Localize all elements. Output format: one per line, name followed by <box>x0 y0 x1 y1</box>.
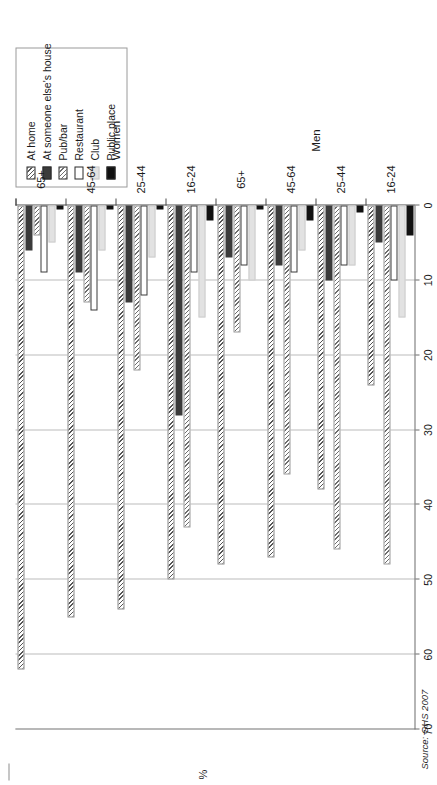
bar-club <box>198 205 205 317</box>
bar-home <box>367 205 374 385</box>
gridline <box>15 728 415 729</box>
bar-home <box>317 205 324 489</box>
axis-baseline <box>414 205 415 729</box>
bar-public <box>406 205 413 235</box>
bar-someone <box>75 205 82 272</box>
category-axis-label: 65+ <box>234 159 246 199</box>
category-tick <box>265 198 266 205</box>
bar-someone <box>125 205 132 302</box>
bar-pub <box>133 205 140 370</box>
category-axis-label: 45-64 <box>84 159 96 199</box>
value-axis-tick-label: 50 <box>421 573 433 585</box>
corner-rule <box>8 763 9 780</box>
bar-club <box>248 205 255 280</box>
bar-public <box>106 205 113 209</box>
value-axis-tick-label: 40 <box>421 499 433 511</box>
value-axis-tick-label: 30 <box>421 424 433 436</box>
bar-public <box>256 205 263 209</box>
bar-pub <box>383 205 390 564</box>
gridline <box>15 354 415 355</box>
bar-rest <box>240 205 247 265</box>
bar-someone <box>275 205 282 265</box>
bar-home <box>267 205 274 557</box>
value-axis-tick-label: 20 <box>421 349 433 361</box>
legend-label: At someone else's house <box>41 43 52 160</box>
legend-swatch-pub-bar-icon <box>58 166 67 179</box>
gridline <box>15 503 415 504</box>
value-axis-tick <box>415 354 419 355</box>
legend-item-pub-bar: Pub/bar <box>55 56 70 179</box>
figure-stage: At home At someone else's house Pub/bar … <box>0 0 437 785</box>
value-axis-title: % <box>196 769 208 779</box>
bar-rest <box>390 205 397 280</box>
bar-rest <box>290 205 297 272</box>
bar-public <box>306 205 313 220</box>
bar-rest <box>40 205 47 272</box>
category-tick <box>165 198 166 205</box>
bar-pub <box>83 205 90 302</box>
bar-home <box>117 205 124 609</box>
bar-public <box>206 205 213 220</box>
category-tick <box>315 198 316 205</box>
legend-label: At home <box>25 121 36 160</box>
bar-home <box>167 205 174 579</box>
bar-pub <box>233 205 240 332</box>
gridline <box>15 578 415 579</box>
legend-label: Pub/bar <box>57 123 68 160</box>
bar-club <box>148 205 155 257</box>
value-axis-tick <box>415 429 419 430</box>
bar-club <box>298 205 305 250</box>
category-axis-label: 16-24 <box>384 159 396 199</box>
group-axis-label-women: Women <box>109 113 121 167</box>
legend-swatch-public-place-icon <box>106 166 115 179</box>
category-axis-label: 65+ <box>34 159 46 199</box>
bar-rest <box>190 205 197 272</box>
gridline <box>15 279 415 280</box>
value-axis-tick <box>415 653 419 654</box>
bar-pub <box>33 205 40 235</box>
bar-pub <box>183 205 190 527</box>
bar-club <box>348 205 355 265</box>
category-axis-label: 45-64 <box>284 159 296 199</box>
bar-someone <box>175 205 182 415</box>
bar-club <box>98 205 105 250</box>
gridlines: 010203040506070 <box>15 205 415 729</box>
group-axis-label-men: Men <box>309 113 321 167</box>
plot-area: 010203040506070 16-2425-4445-6465+16-242… <box>15 205 415 729</box>
bar-someone <box>25 205 32 250</box>
category-tick <box>115 198 116 205</box>
bar-pub <box>283 205 290 474</box>
legend-label: Restaurant <box>73 109 84 160</box>
value-axis-tick-label: 0 <box>421 202 433 208</box>
category-axis-label: 16-24 <box>184 159 196 199</box>
value-axis-tick-label: 60 <box>421 648 433 660</box>
bar-club <box>48 205 55 242</box>
value-axis-tick <box>415 279 419 280</box>
bar-rest <box>90 205 97 310</box>
value-axis-tick-label: 10 <box>421 274 433 286</box>
bar-public <box>356 205 363 212</box>
category-tick <box>15 198 16 205</box>
bar-someone <box>375 205 382 242</box>
bar-someone <box>225 205 232 257</box>
bar-someone <box>325 205 332 280</box>
legend-swatch-restaurant-icon <box>74 166 83 179</box>
bar-public <box>56 205 63 209</box>
value-axis-tick <box>415 578 419 579</box>
bar-rest <box>140 205 147 295</box>
bar-rest <box>340 205 347 265</box>
bar-home <box>17 205 24 669</box>
legend-label: Club <box>89 138 100 160</box>
category-tick <box>365 198 366 205</box>
bar-public <box>156 205 163 209</box>
gridline <box>15 429 415 430</box>
bar-pub <box>333 205 340 549</box>
value-axis-tick <box>415 204 419 205</box>
gridline <box>15 653 415 654</box>
bar-home <box>67 205 74 617</box>
category-axis-label: 25-44 <box>134 159 146 199</box>
category-tick <box>215 198 216 205</box>
bar-club <box>398 205 405 317</box>
category-axis-label: 25-44 <box>334 159 346 199</box>
source-note: Source: GHS 2007 <box>418 689 429 769</box>
